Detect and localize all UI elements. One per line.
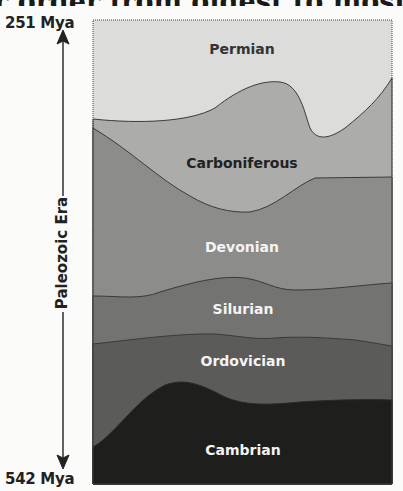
label-ordovician: Ordovician xyxy=(201,353,286,369)
label-silurian: Silurian xyxy=(213,301,274,317)
label-cambrian: Cambrian xyxy=(205,442,280,458)
label-devonian: Devonian xyxy=(205,239,279,255)
label-carboniferous: Carboniferous xyxy=(186,155,297,171)
label-permian: Permian xyxy=(209,41,274,57)
time-axis-arrow xyxy=(57,30,69,469)
strata-diagram: Permian Carboniferous Devonian Silurian … xyxy=(0,0,403,491)
